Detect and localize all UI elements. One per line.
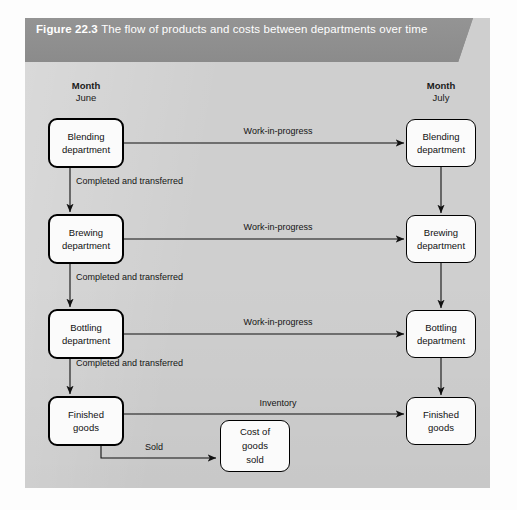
node-label: Finished goods: [68, 408, 104, 434]
column-heading-left-value: June: [26, 92, 146, 104]
figure-number: Figure 22.3: [36, 23, 98, 35]
node-line-2: department: [417, 240, 465, 251]
column-heading-june: Month June: [26, 80, 146, 104]
node-cost-of-goods-sold[interactable]: Cost of goods sold: [220, 420, 290, 472]
edge-label-completed-transferred-3: Completed and transferred: [76, 358, 183, 369]
figure-caption: Figure 22.3 The flow of products and cos…: [36, 22, 446, 38]
node-bottling-july[interactable]: Bottling department: [406, 310, 476, 358]
edge-label-work-in-progress-1: Work-in-progress: [168, 126, 388, 137]
edge-label-inventory: Inventory: [168, 398, 388, 409]
column-heading-right-label: Month: [381, 80, 501, 92]
node-line-1: Finished: [68, 409, 104, 420]
node-bottling-june[interactable]: Bottling department: [48, 309, 124, 359]
node-label: Blending department: [417, 130, 465, 156]
node-label: Brewing department: [62, 226, 110, 252]
node-finished-goods-july[interactable]: Finished goods: [406, 397, 476, 445]
node-blending-july[interactable]: Blending department: [406, 119, 476, 167]
node-line-1: Bottling: [425, 322, 457, 333]
node-label: Cost of goods sold: [240, 425, 270, 467]
node-line-2: department: [62, 240, 110, 251]
node-line-2: department: [62, 144, 110, 155]
edge-label-completed-transferred-1: Completed and transferred: [76, 176, 183, 187]
node-line-2: department: [62, 335, 110, 346]
node-line-3: sold: [246, 454, 263, 465]
node-line-1: Brewing: [69, 227, 103, 238]
column-heading-july: Month July: [381, 80, 501, 104]
node-label: Blending department: [62, 130, 110, 156]
figure-page: Figure 22.3 The flow of products and cos…: [0, 0, 517, 510]
node-label: Bottling department: [417, 321, 465, 347]
node-line-2: goods: [73, 422, 99, 433]
node-blending-june[interactable]: Blending department: [48, 118, 124, 168]
edge-label-work-in-progress-3: Work-in-progress: [168, 317, 388, 328]
edge-label-sold: Sold: [145, 442, 163, 453]
node-line-1: Bottling: [70, 322, 102, 333]
node-line-2: goods: [428, 422, 454, 433]
caption-body: The flow of products and costs between d…: [101, 23, 427, 35]
edge-label-completed-transferred-2: Completed and transferred: [76, 272, 183, 283]
node-line-1: Blending: [68, 131, 105, 142]
node-line-1: Blending: [423, 131, 460, 142]
node-label: Bottling department: [62, 321, 110, 347]
node-line-1: Brewing: [424, 227, 458, 238]
node-line-2: department: [417, 144, 465, 155]
node-label: Finished goods: [423, 408, 459, 434]
node-line-1: Finished: [423, 409, 459, 420]
column-heading-left-label: Month: [26, 80, 146, 92]
node-line-2: goods: [242, 440, 268, 451]
node-brewing-june[interactable]: Brewing department: [48, 214, 124, 264]
node-brewing-july[interactable]: Brewing department: [406, 215, 476, 263]
node-line-2: department: [417, 335, 465, 346]
column-heading-right-value: July: [381, 92, 501, 104]
node-finished-goods-june[interactable]: Finished goods: [48, 396, 124, 446]
node-label: Brewing department: [417, 226, 465, 252]
edge-label-work-in-progress-2: Work-in-progress: [168, 222, 388, 233]
node-line-1: Cost of: [240, 426, 270, 437]
